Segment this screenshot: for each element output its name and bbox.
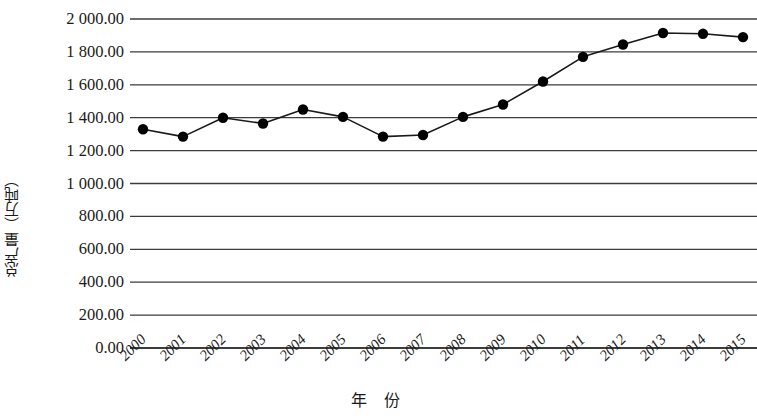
data-point [138, 124, 148, 134]
y-axis-tick-label: 800.00 [79, 208, 124, 225]
data-point [378, 131, 388, 141]
y-axis-tick-label: 1 400.00 [66, 109, 124, 126]
y-axis-title: 总产量（万吨） [0, 95, 26, 355]
data-point [498, 99, 508, 109]
y-axis-tick-label: 1 600.00 [66, 77, 124, 94]
data-point [578, 52, 588, 62]
y-axis-tick-label: 600.00 [79, 241, 124, 258]
y-axis-tick-label: 200.00 [79, 307, 124, 324]
data-point [298, 104, 308, 114]
line-chart: 总产量（万吨） 2 000.001 800.001 600.001 400.00… [0, 0, 757, 418]
data-point [538, 76, 548, 86]
y-axis-tick-label: 1 800.00 [66, 44, 124, 61]
data-point [738, 32, 748, 42]
data-point [458, 112, 468, 122]
y-axis-tick-label: 1 000.00 [66, 175, 124, 192]
data-point [218, 113, 228, 123]
data-point [698, 29, 708, 39]
data-point [658, 28, 668, 38]
data-point [338, 112, 348, 122]
plot-svg [130, 0, 757, 360]
data-point [258, 118, 268, 128]
gridlines [130, 19, 757, 348]
data-point [618, 39, 628, 49]
y-axis-tick-label: 400.00 [79, 274, 124, 291]
y-axis-tick-label: 2 000.00 [66, 11, 124, 28]
plot-area [130, 0, 757, 360]
x-axis-title: 年 份 [0, 392, 757, 410]
data-point [418, 130, 428, 140]
data-point [178, 131, 188, 141]
y-axis-tick-label: 1 200.00 [66, 142, 124, 159]
y-axis-tick-labels: 2 000.001 800.001 600.001 400.001 200.00… [26, 0, 130, 360]
